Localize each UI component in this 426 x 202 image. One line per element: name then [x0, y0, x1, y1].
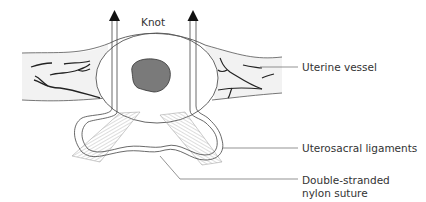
label-uterine-vessel: Uterine vessel — [302, 61, 377, 73]
arrow-up-left-icon — [109, 10, 120, 21]
uterosacral-ligament-right — [160, 112, 222, 165]
label-knot: Knot — [141, 16, 165, 28]
diagram-canvas — [0, 0, 426, 202]
label-uterosacral-ligaments: Uterosacral ligaments — [302, 142, 417, 154]
label-suture-line2: nylon suture — [302, 187, 368, 199]
leader-suture — [160, 156, 298, 179]
arrow-up-right-icon — [188, 10, 199, 21]
label-suture-line1: Double-stranded — [302, 174, 390, 186]
cervical-os — [132, 59, 171, 92]
